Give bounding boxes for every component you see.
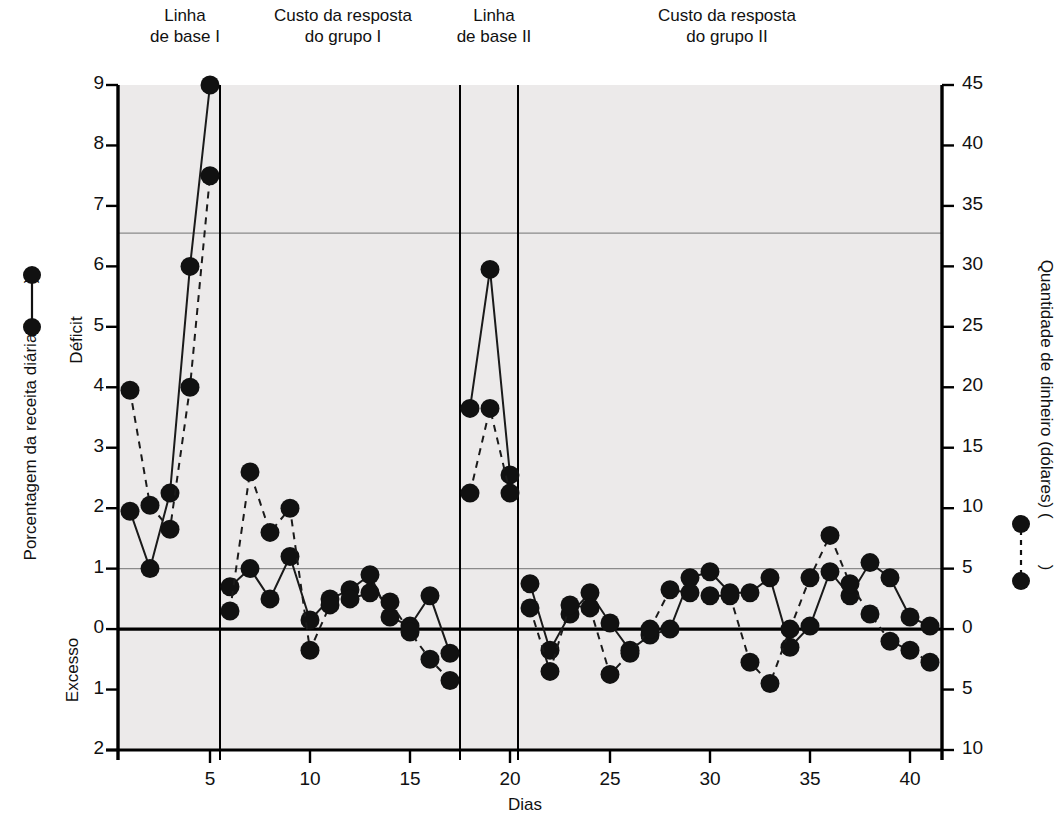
data-point (581, 598, 600, 617)
y-tick-label-right: 30 (962, 253, 1010, 275)
data-point (441, 671, 460, 690)
data-point (921, 617, 940, 636)
x-tick-label: 25 (585, 768, 635, 790)
data-point (701, 562, 720, 581)
y-tick-label-left: 8 (56, 132, 104, 154)
data-point (501, 484, 520, 503)
data-point (461, 484, 480, 503)
data-point (481, 399, 500, 418)
data-point (141, 496, 160, 515)
data-point (601, 665, 620, 684)
data-point (901, 608, 920, 627)
y-tick-label-right: 10 (962, 737, 1010, 759)
data-point (221, 602, 240, 621)
y-tick-label-left: 5 (56, 314, 104, 336)
data-point (821, 526, 840, 545)
data-point (421, 586, 440, 605)
x-tick-label: 5 (185, 768, 235, 790)
data-point (481, 260, 500, 279)
data-point (841, 574, 860, 593)
data-point (901, 641, 920, 660)
data-point (721, 586, 740, 605)
plot-background (118, 85, 942, 750)
x-tick-label: 10 (285, 768, 335, 790)
y-tick-label-right: 10 (962, 495, 1010, 517)
x-tick-label: 35 (785, 768, 835, 790)
data-point (881, 632, 900, 651)
data-point (541, 662, 560, 681)
y-tick-label-left: 2 (56, 737, 104, 759)
y-tick-label-left: 4 (56, 374, 104, 396)
data-point (181, 257, 200, 276)
x-tick-label: 15 (385, 768, 435, 790)
data-point (881, 568, 900, 587)
x-tick-label: 30 (685, 768, 735, 790)
y-tick-label-left: 9 (56, 72, 104, 94)
data-point (761, 568, 780, 587)
data-point (561, 595, 580, 614)
data-point (921, 653, 940, 672)
data-point (401, 623, 420, 642)
data-point (681, 583, 700, 602)
y-tick-label-right: 0 (962, 616, 1010, 638)
data-point (161, 520, 180, 539)
y-tick-label-right: 15 (962, 435, 1010, 457)
data-point (261, 589, 280, 608)
data-point (161, 484, 180, 503)
y-tick-label-left: 6 (56, 253, 104, 275)
legend-marker-solid-top (23, 266, 41, 284)
y-tick-label-left: 0 (56, 616, 104, 638)
data-point (301, 611, 320, 630)
data-point (361, 565, 380, 584)
data-point (441, 644, 460, 663)
data-point (301, 641, 320, 660)
data-point (641, 620, 660, 639)
data-point (861, 553, 880, 572)
legend-marker-dashed-bottom (1012, 572, 1030, 590)
data-point (341, 589, 360, 608)
data-point (621, 644, 640, 663)
data-point (781, 620, 800, 639)
data-point (661, 620, 680, 639)
data-point (361, 583, 380, 602)
data-point (781, 638, 800, 657)
data-point (761, 674, 780, 693)
data-point (521, 598, 540, 617)
data-point (201, 76, 220, 95)
data-point (661, 580, 680, 599)
chart-svg (0, 0, 1058, 832)
chart-root: Linha de base I Custo da resposta do gru… (0, 0, 1058, 832)
data-point (121, 381, 140, 400)
x-tick-label: 20 (485, 768, 535, 790)
y-tick-label-right: 25 (962, 314, 1010, 336)
data-point (861, 605, 880, 624)
legend-marker-dashed-top (1012, 515, 1030, 533)
data-point (201, 166, 220, 185)
data-point (261, 523, 280, 542)
legend-marker-solid-bottom (23, 318, 41, 336)
data-point (461, 399, 480, 418)
data-point (741, 653, 760, 672)
y-tick-label-right: 20 (962, 374, 1010, 396)
data-point (801, 568, 820, 587)
y-tick-label-left: 3 (56, 435, 104, 457)
data-point (701, 586, 720, 605)
data-point (121, 502, 140, 521)
y-tick-label-right: 40 (962, 132, 1010, 154)
data-point (141, 559, 160, 578)
y-tick-label-right: 5 (962, 556, 1010, 578)
y-tick-label-left: 1 (56, 556, 104, 578)
data-point (521, 574, 540, 593)
data-point (741, 583, 760, 602)
y-tick-label-left: 2 (56, 495, 104, 517)
y-tick-label-right: 45 (962, 72, 1010, 94)
y-tick-label-right: 35 (962, 193, 1010, 215)
x-tick-label: 40 (885, 768, 935, 790)
y-tick-label-right: 5 (962, 677, 1010, 699)
y-tick-label-left: 7 (56, 193, 104, 215)
data-point (321, 595, 340, 614)
data-point (821, 562, 840, 581)
data-point (181, 378, 200, 397)
data-point (221, 577, 240, 596)
data-point (241, 462, 260, 481)
